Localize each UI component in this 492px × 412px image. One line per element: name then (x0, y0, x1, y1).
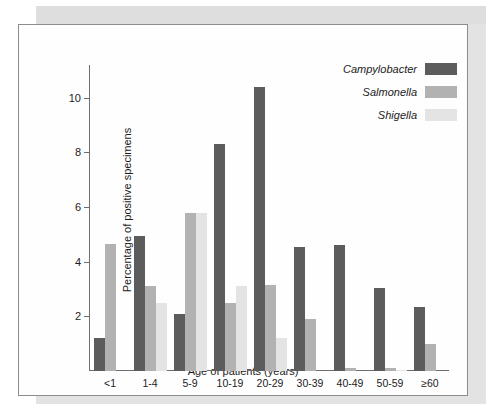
bar-group: 20-29 (250, 65, 290, 371)
bar (374, 288, 385, 371)
bar (385, 368, 396, 371)
y-tick-label: 6 (75, 201, 81, 213)
legend-label: Salmonella (363, 86, 417, 98)
bar (276, 338, 287, 371)
y-tick-mark (84, 152, 89, 153)
legend-item: Salmonella (343, 86, 457, 98)
legend-swatch (425, 63, 457, 75)
legend-swatch (425, 109, 457, 121)
bar (334, 245, 345, 371)
bar (214, 144, 225, 371)
page-shadow-band-top (36, 6, 486, 24)
bar (265, 285, 276, 371)
legend-swatch (425, 86, 457, 98)
bar (414, 307, 425, 371)
bar (196, 213, 207, 371)
bar (305, 319, 316, 371)
bar-group: 5-9 (170, 65, 210, 371)
legend-item: Shigella (343, 109, 457, 121)
chart-legend: CampylobacterSalmonellaShigella (343, 63, 457, 121)
x-tick-label: 50-59 (370, 377, 410, 389)
bar (225, 303, 236, 371)
bar (94, 338, 105, 371)
legend-label: Shigella (378, 109, 417, 121)
x-tick-label: ≥60 (410, 377, 450, 389)
y-tick-mark (84, 207, 89, 208)
y-tick-mark (84, 316, 89, 317)
x-tick-label: 40-49 (330, 377, 370, 389)
figure-frame: Percentage of positive specimens Age of … (18, 24, 468, 396)
x-tick-label: 1-4 (130, 377, 170, 389)
x-tick-label: 30-39 (290, 377, 330, 389)
bar (345, 368, 356, 371)
bar (174, 314, 185, 371)
bar (145, 286, 156, 371)
y-tick-label: 8 (75, 146, 81, 158)
bar (254, 87, 265, 371)
y-tick-label: 2 (75, 310, 81, 322)
legend-item: Campylobacter (343, 63, 457, 75)
x-tick-label: <1 (90, 377, 130, 389)
x-tick-label: 10-19 (210, 377, 250, 389)
bar (156, 303, 167, 371)
bar-group: 1-4 (130, 65, 170, 371)
bar (134, 236, 145, 371)
y-tick-mark (84, 262, 89, 263)
bar-group: <1 (90, 65, 130, 371)
bar (425, 344, 436, 371)
y-tick-label: 10 (69, 92, 81, 104)
bar (294, 247, 305, 371)
bar-group: 10-19 (210, 65, 250, 371)
bar (396, 370, 407, 371)
bar (236, 286, 247, 371)
x-tick-label: 20-29 (250, 377, 290, 389)
y-tick-mark (84, 98, 89, 99)
bar-group: 30-39 (290, 65, 330, 371)
bar (185, 213, 196, 371)
y-tick-label: 4 (75, 256, 81, 268)
legend-label: Campylobacter (343, 63, 417, 75)
bar (105, 244, 116, 371)
x-tick-label: 5-9 (170, 377, 210, 389)
